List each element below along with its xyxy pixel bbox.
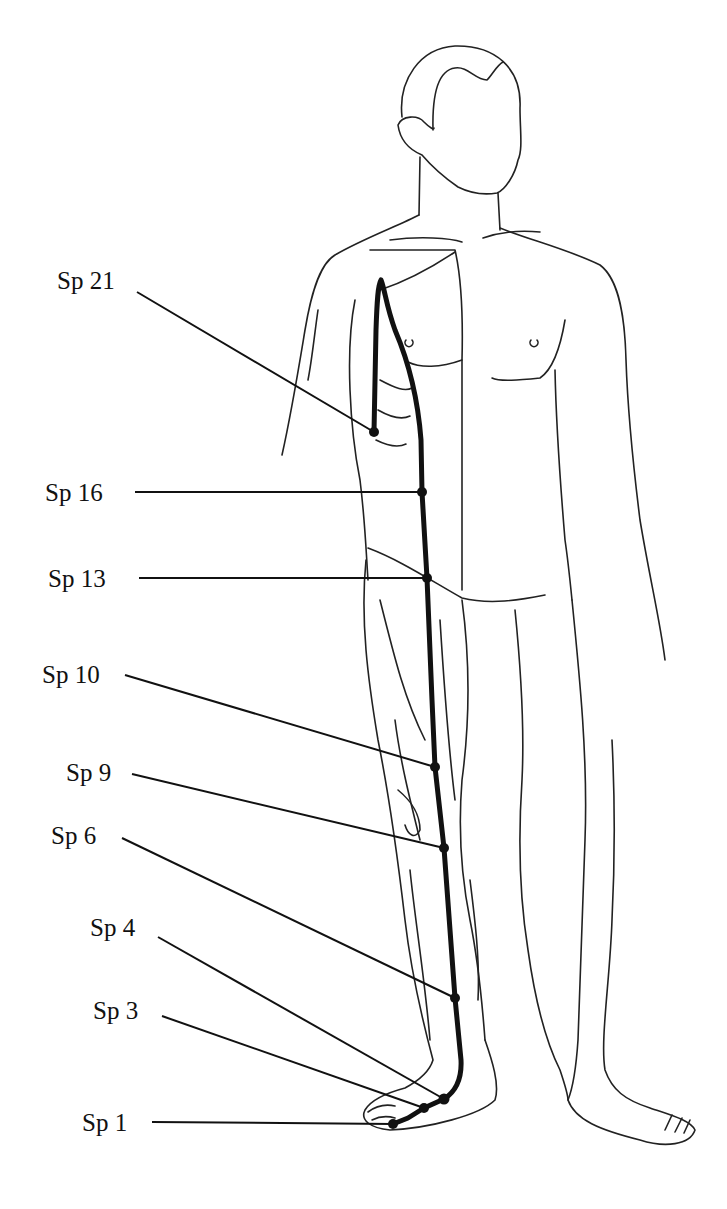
label-sp1: Sp 1 — [82, 1110, 127, 1135]
label-sp10: Sp 10 — [42, 662, 100, 687]
right-shoulder — [500, 228, 665, 660]
pec-left — [370, 250, 462, 366]
label-sp3: Sp 3 — [93, 998, 138, 1023]
acupoint-sp21 — [369, 427, 379, 437]
acupoint-sp3 — [419, 1103, 429, 1113]
chest-diagonal — [380, 252, 455, 290]
rib-lines — [376, 380, 412, 446]
body-figure-diagram — [0, 0, 727, 1209]
leader-line-sp4 — [158, 937, 444, 1099]
left-leg-inner — [460, 600, 485, 1040]
leader-line-sp10 — [125, 675, 435, 767]
right-leg-outer — [568, 600, 695, 1144]
leader-line-sp21 — [137, 292, 374, 432]
torso-left-side — [350, 300, 368, 580]
nipple-right — [530, 340, 538, 347]
label-sp4: Sp 4 — [90, 915, 135, 940]
leader-line-sp3 — [162, 1016, 424, 1108]
acupoint-sp4 — [439, 1094, 450, 1105]
neck-right — [498, 193, 500, 230]
acupoint-sp1 — [388, 1119, 398, 1129]
leader-line-sp1 — [152, 1122, 393, 1124]
right-leg-inner — [515, 610, 568, 1100]
label-sp9: Sp 9 — [66, 760, 111, 785]
hip-line — [368, 548, 545, 601]
label-sp13: Sp 13 — [48, 566, 106, 591]
torso-right-side — [555, 370, 572, 600]
pec-right — [492, 320, 565, 380]
acupoint-sp6 — [450, 993, 460, 1003]
clavicle-right — [483, 231, 540, 238]
hairline — [433, 62, 503, 130]
acupoint-sp10 — [430, 762, 440, 772]
nipple-left — [405, 340, 413, 347]
leader-line-sp9 — [132, 774, 444, 848]
body-outline — [282, 46, 695, 1144]
acupoint-sp16 — [417, 487, 427, 497]
acupoint-sp13 — [422, 573, 432, 583]
clavicle-left — [390, 238, 462, 242]
label-sp21: Sp 21 — [57, 268, 115, 293]
acupoint-sp9 — [439, 843, 449, 853]
acupoints — [369, 427, 460, 1129]
label-sp16: Sp 16 — [45, 480, 103, 505]
left-arm-inner — [308, 310, 318, 380]
label-sp6: Sp 6 — [51, 823, 96, 848]
left-toes — [368, 1105, 395, 1120]
neck-left — [419, 157, 420, 215]
